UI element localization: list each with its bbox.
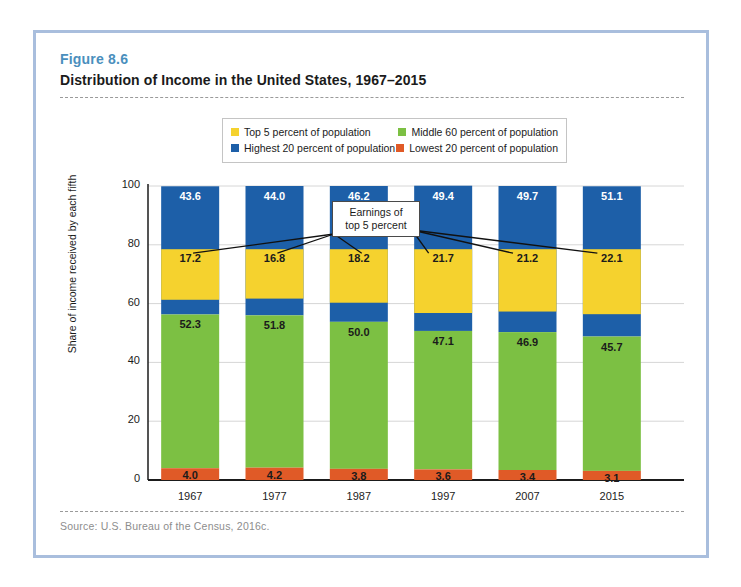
bar-value-label: 21.2 (499, 252, 557, 264)
x-axis-tick-label: 1997 (408, 490, 478, 502)
bar-value-label: 51.1 (583, 190, 641, 202)
bar-value-label: 52.3 (161, 318, 219, 330)
y-axis-tick-label: 40 (110, 354, 140, 366)
bar-value-label: 17.2 (161, 252, 219, 264)
annotation-line-1: Earnings of (335, 206, 417, 219)
bar-value-label: 3.8 (330, 470, 388, 482)
y-axis-tick-label: 100 (110, 178, 140, 190)
bar-value-label: 49.7 (499, 190, 557, 202)
bar-value-label: 49.4 (414, 190, 472, 202)
bar-value-label: 3.4 (499, 471, 557, 483)
bar-value-label: 21.7 (414, 252, 472, 264)
bar-value-label: 4.0 (161, 469, 219, 481)
y-axis-tick-label: 20 (110, 413, 140, 425)
bar-value-label: 3.6 (414, 470, 472, 482)
figure-frame: Figure 8.6 Distribution of Income in the… (33, 30, 709, 558)
x-axis-tick-label: 2007 (493, 490, 563, 502)
x-axis-tick-label: 1977 (240, 490, 310, 502)
annotation-earnings-top5: Earnings of top 5 percent (332, 201, 420, 237)
bar-value-label: 22.1 (583, 252, 641, 264)
bar-value-label: 50.0 (330, 326, 388, 338)
bar-value-label: 43.6 (161, 190, 219, 202)
bar-value-label: 18.2 (330, 252, 388, 264)
bar-value-label: 46.9 (499, 336, 557, 348)
bar-value-label: 16.8 (246, 252, 304, 264)
y-axis-tick-label: 0 (110, 472, 140, 484)
x-axis-tick-label: 1967 (155, 490, 225, 502)
bar-value-label: 51.8 (246, 319, 304, 331)
chart-plot-area: Share of income received by each fifth E… (36, 33, 712, 561)
x-axis-tick-label: 1987 (324, 490, 394, 502)
bar-value-label: 44.0 (246, 190, 304, 202)
bar-value-label: 3.1 (583, 472, 641, 484)
bar-value-label: 4.2 (246, 469, 304, 481)
bar-value-label: 47.1 (414, 335, 472, 347)
x-axis-tick-label: 2015 (577, 490, 647, 502)
annotation-line-2: top 5 percent (335, 219, 417, 232)
y-axis-tick-label: 80 (110, 237, 140, 249)
y-axis-tick-label: 60 (110, 296, 140, 308)
bar-value-label: 45.7 (583, 341, 641, 353)
